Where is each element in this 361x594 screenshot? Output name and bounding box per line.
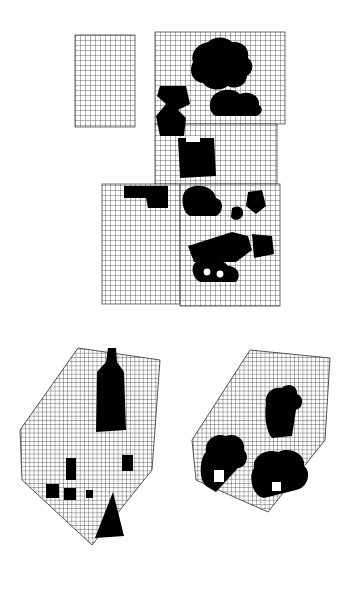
blob-center-block: [178, 138, 216, 178]
hex-left: [20, 348, 160, 545]
blob-small-box-c: [64, 488, 76, 500]
blob-top-cloud: [191, 38, 252, 90]
diagram-svg: [0, 0, 361, 594]
tile-lower-left: [102, 184, 180, 304]
group-lower-right-hexagon: [192, 350, 330, 512]
tile-top-left: [75, 35, 135, 127]
blob-notch-white: [186, 136, 200, 142]
blob-bottom-eye-left: [204, 269, 211, 276]
group-lower-left-hexagon: [20, 348, 160, 545]
blob-cluster-right-window: [272, 482, 281, 491]
blob-small-box-a: [66, 458, 76, 480]
figure-canvas: Abstract black-and-white figure: grid-fi…: [0, 0, 361, 594]
blob-bottom-eye-right: [217, 271, 224, 278]
blob-small-box-d: [46, 484, 59, 498]
blob-cluster-left-window: [214, 470, 224, 482]
blob-right-fin: [252, 234, 274, 258]
group-top-assembly: [75, 32, 285, 306]
blob-small-box-b: [122, 455, 133, 471]
blob-small-box-e: [86, 490, 93, 498]
